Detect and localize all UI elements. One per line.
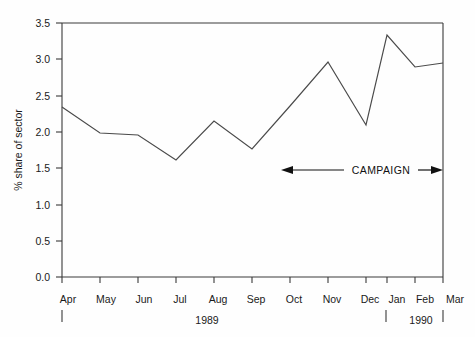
- y-tick-label: 0.5: [35, 235, 50, 247]
- y-axis-title: % share of sector: [12, 109, 24, 191]
- x-tick-label-nov: Nov: [323, 293, 342, 305]
- y-tick-label: 3.0: [35, 53, 50, 65]
- y-tick-label: 1.0: [35, 199, 50, 211]
- year-label-1990: 1990: [409, 314, 433, 326]
- year-group-ticks: [62, 310, 443, 322]
- y-axis-ticks: [56, 23, 62, 277]
- y-axis-tick-labels: 3.5 3.0 2.5 2.0 1.5 1.0 0.5 0.0: [35, 17, 50, 283]
- y-tick-label: 3.5: [35, 17, 50, 29]
- y-tick-label: 2.5: [35, 90, 50, 102]
- y-tick-label: 1.5: [35, 162, 50, 174]
- campaign-label: CAMPAIGN: [352, 164, 410, 176]
- chart-figure: 3.5 3.0 2.5 2.0 1.5 1.0 0.5 0.0 % share …: [0, 0, 475, 337]
- x-tick-label-oct: Oct: [286, 293, 302, 305]
- x-tick-label-aug: Aug: [209, 293, 228, 305]
- series-line-share-of-sector: [62, 35, 443, 160]
- campaign-annotation: CAMPAIGN: [281, 164, 443, 176]
- campaign-left-arrowhead: [281, 166, 293, 174]
- x-tick-label-may: May: [96, 293, 117, 305]
- x-axis-ticks: [62, 277, 443, 283]
- x-tick-label-jun: Jun: [136, 293, 153, 305]
- x-tick-label-mar: Mar: [446, 293, 465, 305]
- line-chart-svg: 3.5 3.0 2.5 2.0 1.5 1.0 0.5 0.0 % share …: [0, 0, 475, 337]
- x-axis-tick-labels: Apr May Jun Jul Aug Sep Oct Nov Dec Jan …: [60, 293, 465, 305]
- x-tick-label-apr: Apr: [60, 293, 77, 305]
- year-label-1989: 1989: [195, 314, 219, 326]
- x-tick-label-jan: Jan: [389, 293, 406, 305]
- plot-frame: [62, 23, 443, 277]
- y-tick-label: 0.0: [35, 271, 50, 283]
- y-tick-label: 2.0: [35, 126, 50, 138]
- x-tick-label-feb: Feb: [416, 293, 434, 305]
- campaign-right-arrowhead: [431, 166, 443, 174]
- x-tick-label-dec: Dec: [361, 293, 380, 305]
- x-tick-label-sep: Sep: [247, 293, 266, 305]
- x-tick-label-jul: Jul: [173, 293, 186, 305]
